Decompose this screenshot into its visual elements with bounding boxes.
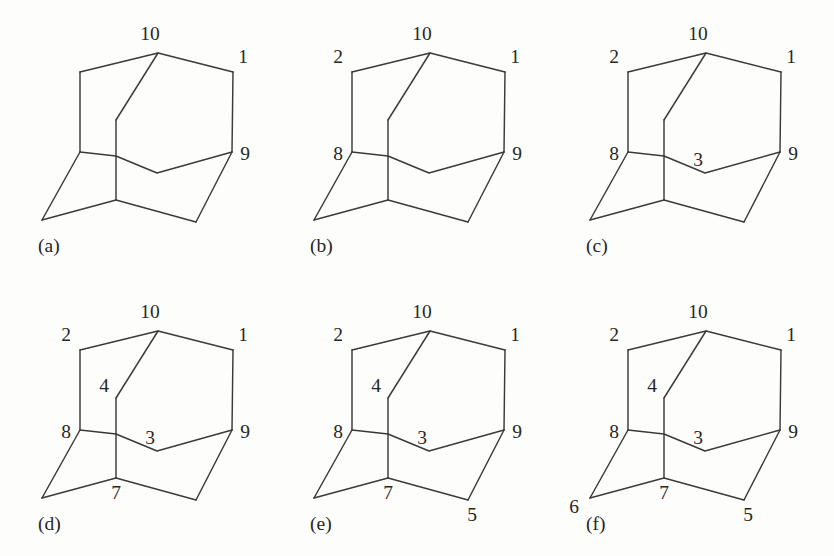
vertex-label-10: 10: [412, 301, 432, 322]
cage-edge-10: [196, 430, 232, 500]
cage-edge-9: [388, 200, 468, 222]
vertex-label-2: 2: [333, 324, 343, 345]
cage-edge-10: [468, 152, 504, 222]
panel-e: 1021483975(e): [272, 278, 550, 556]
adamantane-labeling-figure: 1019(a)102189(b)1021839(c)102148397(d)10…: [0, 0, 834, 556]
cage-edge-3: [780, 350, 781, 430]
cage-edge-3: [780, 72, 781, 152]
cage-edge-4: [116, 53, 158, 120]
vertex-label-4: 4: [647, 375, 657, 396]
cage-edge-6: [628, 152, 780, 173]
vertex-label-10: 10: [412, 23, 432, 44]
vertex-label-10: 10: [688, 23, 708, 44]
vertex-label-1: 1: [510, 324, 520, 345]
vertex-label-9: 9: [512, 143, 522, 164]
cage-edge-9: [664, 200, 744, 222]
cage-edge-4: [388, 53, 430, 120]
cage-edge-6: [628, 430, 780, 451]
vertex-label-2: 2: [61, 324, 71, 345]
cage-edge-8: [42, 478, 116, 498]
vertex-label-8: 8: [333, 143, 343, 164]
cage-drawing-e: 1021483975(e): [272, 278, 550, 556]
vertex-label-7: 7: [383, 482, 393, 503]
vertex-label-1: 1: [238, 46, 248, 67]
panel-caption-d: (d): [38, 513, 61, 535]
cage-edge-8: [314, 200, 388, 220]
vertex-label-9: 9: [788, 421, 798, 442]
panel-caption-c: (c): [586, 235, 608, 257]
vertex-label-10: 10: [140, 301, 160, 322]
cage-edge-3: [504, 350, 505, 430]
cage-edge-9: [388, 478, 468, 500]
cage-edge-4: [664, 53, 706, 120]
cage-edge-9: [116, 478, 196, 500]
vertex-label-9: 9: [788, 143, 798, 164]
panel-d: 102148397(d): [0, 278, 278, 556]
panel-caption-f: (f): [586, 513, 605, 535]
vertex-label-2: 2: [609, 324, 619, 345]
vertex-label-1: 1: [786, 324, 796, 345]
cage-drawing-f: 10214839756(f): [548, 278, 826, 556]
cage-edge-8: [42, 200, 116, 220]
vertex-label-1: 1: [238, 324, 248, 345]
cage-edge-6: [80, 430, 232, 451]
vertex-label-6: 6: [569, 496, 579, 517]
cage-edge-3: [504, 72, 505, 152]
cage-edge-10: [744, 152, 780, 222]
cage-edge-3: [232, 350, 233, 430]
vertex-label-2: 2: [609, 46, 619, 67]
vertex-label-7: 7: [111, 482, 121, 503]
cage-edge-6: [352, 430, 504, 451]
panel-caption-b: (b): [310, 235, 333, 257]
vertex-label-9: 9: [512, 421, 522, 442]
cage-edge-4: [116, 331, 158, 398]
vertex-label-4: 4: [371, 375, 381, 396]
vertex-label-8: 8: [61, 421, 71, 442]
cage-edge-6: [352, 152, 504, 173]
cage-edge-10: [468, 430, 504, 500]
vertex-label-1: 1: [510, 46, 520, 67]
cage-edge-4: [664, 331, 706, 398]
vertex-label-9: 9: [240, 421, 250, 442]
panel-c: 1021839(c): [548, 0, 826, 278]
cage-edge-9: [116, 200, 196, 222]
cage-edge-8: [590, 200, 664, 220]
vertex-label-3: 3: [145, 427, 155, 448]
cage-edge-4: [388, 331, 430, 398]
cage-edge-8: [590, 478, 664, 498]
cage-edge-6: [80, 152, 232, 173]
vertex-label-4: 4: [99, 375, 109, 396]
cage-edge-7: [42, 152, 80, 220]
vertex-label-3: 3: [693, 149, 703, 170]
cage-edge-3: [232, 72, 233, 152]
cage-drawing-c: 1021839(c): [548, 0, 826, 278]
cage-drawing-b: 102189(b): [272, 0, 550, 278]
panel-a: 1019(a): [0, 0, 278, 278]
cage-drawing-a: 1019(a): [0, 0, 278, 278]
cage-drawing-d: 102148397(d): [0, 278, 278, 556]
cage-edge-10: [744, 430, 780, 500]
vertex-label-8: 8: [609, 143, 619, 164]
cage-edge-8: [314, 478, 388, 498]
vertex-label-7: 7: [659, 482, 669, 503]
vertex-label-3: 3: [417, 427, 427, 448]
vertex-label-3: 3: [693, 427, 703, 448]
panel-caption-a: (a): [38, 235, 60, 257]
cage-edge-9: [664, 478, 744, 500]
vertex-label-10: 10: [140, 23, 160, 44]
panel-f: 10214839756(f): [548, 278, 826, 556]
vertex-label-5: 5: [743, 504, 753, 525]
panel-b: 102189(b): [272, 0, 550, 278]
panel-caption-e: (e): [310, 513, 332, 535]
vertex-label-10: 10: [688, 301, 708, 322]
vertex-label-2: 2: [333, 46, 343, 67]
vertex-label-9: 9: [240, 143, 250, 164]
cage-edge-10: [196, 152, 232, 222]
vertex-label-1: 1: [786, 46, 796, 67]
vertex-label-8: 8: [609, 421, 619, 442]
vertex-label-8: 8: [333, 421, 343, 442]
vertex-label-5: 5: [467, 504, 477, 525]
